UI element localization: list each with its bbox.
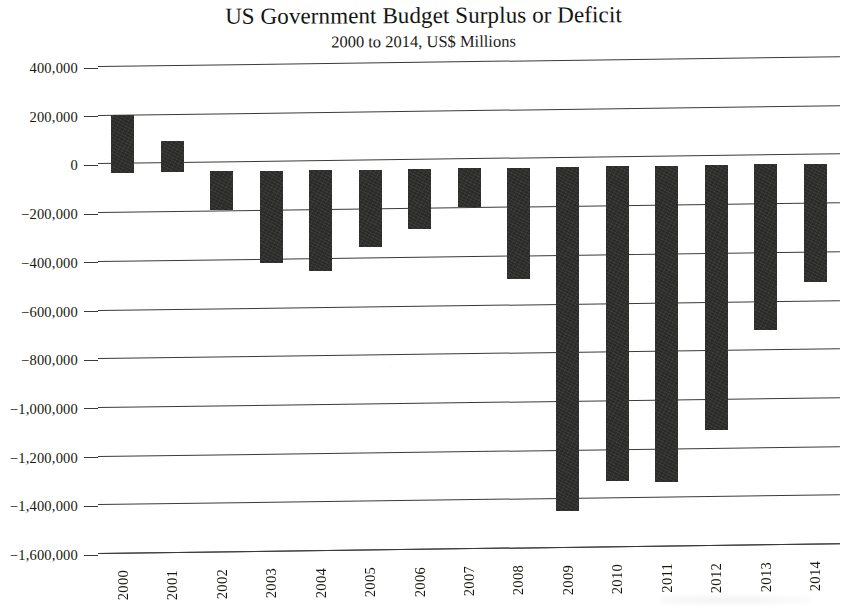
bar-2007 [458, 168, 481, 207]
y-tick-mark [84, 506, 98, 507]
bar-2001 [161, 141, 184, 172]
y-tick-mark [84, 311, 98, 312]
y-tick-mark [84, 262, 98, 263]
gridline [98, 348, 840, 359]
bar-2004 [309, 170, 332, 271]
y-tick-mark [84, 555, 98, 556]
y-axis-tick-label: 0 [0, 157, 78, 174]
x-axis-tick-label: 2011 [659, 563, 676, 593]
bar-2005 [359, 170, 382, 247]
y-axis-tick-label: −400,000 [0, 254, 78, 271]
x-axis-tick-label: 2007 [461, 566, 478, 596]
y-tick-mark [84, 165, 98, 166]
x-axis-tick-label: 2010 [609, 564, 626, 594]
y-axis-tick-label: −1,000,000 [0, 400, 78, 417]
x-axis-tick-label: 2013 [758, 562, 775, 592]
bar-2012 [705, 165, 728, 430]
x-axis-tick-label: 2012 [708, 563, 725, 593]
x-axis-tick-label: 2006 [412, 567, 429, 597]
plot-area: 400,000200,0000−200,000−400,000−600,000−… [0, 0, 847, 611]
bar-2009 [556, 167, 579, 511]
y-tick-mark [84, 457, 98, 458]
x-axis-tick-label: 2004 [313, 568, 330, 598]
gridline [98, 56, 840, 67]
x-axis-tick-label: 2005 [362, 567, 379, 597]
bar-2010 [606, 166, 629, 481]
y-tick-mark [84, 214, 98, 215]
x-axis-tick-label: 2003 [263, 568, 280, 598]
bar-2003 [260, 171, 283, 263]
bar-2000 [111, 115, 134, 172]
y-tick-mark [84, 360, 98, 361]
y-axis-tick-label: −1,600,000 [0, 547, 78, 564]
x-axis-tick-label: 2000 [115, 570, 132, 600]
y-tick-mark [84, 68, 98, 69]
bar-2013 [754, 164, 777, 330]
x-axis-tick-label: 2001 [164, 570, 181, 600]
gridline [98, 446, 840, 457]
x-axis-tick-label: 2014 [807, 561, 824, 591]
chart-figure: US Government Budget Surplus or Deficit … [0, 0, 847, 611]
y-axis-tick-label: 400,000 [0, 60, 78, 77]
x-axis-tick-label: 2002 [214, 569, 231, 599]
y-axis-tick-label: −800,000 [0, 352, 78, 369]
scan-smudge [660, 596, 810, 604]
y-axis-tick-label: −1,200,000 [0, 449, 78, 466]
plot-canvas: 400,000200,0000−200,000−400,000−600,000−… [98, 66, 840, 553]
y-axis-tick-label: −1,400,000 [0, 498, 78, 515]
x-axis-line [98, 543, 840, 554]
y-tick-mark [84, 408, 98, 409]
y-axis-tick-label: −200,000 [0, 206, 78, 223]
gridline [98, 251, 840, 262]
y-tick-mark [84, 116, 98, 117]
gridline [98, 495, 840, 506]
bar-2008 [507, 168, 530, 280]
x-axis-tick-label: 2009 [560, 565, 577, 595]
y-axis-tick-label: 200,000 [0, 108, 78, 125]
bar-2011 [655, 166, 678, 483]
gridline [98, 397, 840, 408]
x-axis-tick-label: 2008 [510, 565, 527, 595]
y-axis-tick-label: −600,000 [0, 303, 78, 320]
bar-2002 [210, 171, 233, 209]
gridline [98, 105, 840, 116]
gridline [98, 300, 840, 311]
gridline [98, 154, 840, 165]
bar-2014 [804, 164, 827, 282]
bar-2006 [408, 169, 431, 229]
